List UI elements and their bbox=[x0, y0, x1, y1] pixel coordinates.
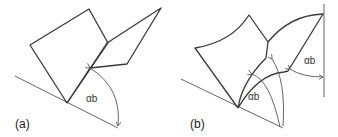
caption-b: (b) bbox=[190, 117, 205, 131]
caption-a: (a) bbox=[15, 117, 30, 131]
panel-a: αb (a) bbox=[15, 8, 161, 131]
angle-arc-b3 bbox=[290, 69, 323, 77]
angle-label-a: αb bbox=[86, 93, 98, 104]
angle-label-b2: αb bbox=[304, 55, 316, 66]
right-plate-a bbox=[67, 8, 161, 103]
angle-label-b1: αb bbox=[248, 91, 260, 102]
figure-canvas: αb (a) αb αb (b) bbox=[0, 0, 338, 137]
panel-b: αb αb (b) bbox=[181, 4, 324, 131]
left-plate-a bbox=[30, 9, 108, 103]
